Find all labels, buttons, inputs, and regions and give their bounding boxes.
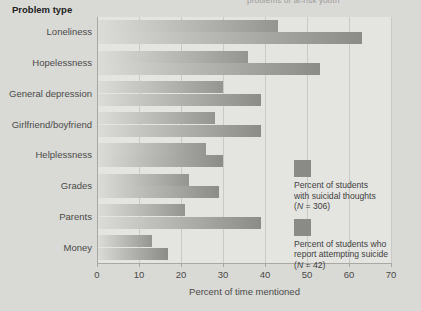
x-tick	[97, 263, 98, 267]
chart-legend: Percent of studentswith suicidal thought…	[294, 160, 418, 277]
legend-label: Percent of students whoreport attempting…	[294, 239, 418, 271]
category-label-helplessness: Helplessness	[0, 149, 92, 160]
x-tick	[139, 263, 140, 267]
x-tick-label-20: 20	[176, 269, 187, 280]
category-label-girlfriend-boyfriend: Girlfriend/boyfriend	[0, 119, 92, 130]
x-tick	[181, 263, 182, 267]
category-label-general-depression: General depression	[0, 88, 92, 99]
bar-money-series-1	[97, 235, 152, 247]
category-label-money: Money	[0, 242, 92, 253]
bar-girlfriend-boyfriend-series-2	[97, 125, 261, 137]
legend-swatch-attempted-suicide	[294, 219, 311, 236]
legend-label: Percent of studentswith suicidal thought…	[294, 180, 418, 212]
x-tick	[223, 263, 224, 267]
category-label-hopelessness: Hopelessness	[0, 57, 92, 68]
bar-helplessness-series-2	[97, 155, 223, 167]
chart-container: problems of at-risk youth Problem type L…	[0, 0, 421, 311]
y-axis-title: Problem type	[12, 4, 72, 15]
bar-girlfriend-boyfriend-series-1	[97, 112, 215, 124]
bar-general-depression-series-1	[97, 81, 223, 93]
x-tick-label-30: 30	[218, 269, 229, 280]
x-tick-label-40: 40	[260, 269, 271, 280]
x-tick-label-10: 10	[134, 269, 145, 280]
bar-grades-series-2	[97, 186, 219, 198]
x-tick-label-0: 0	[94, 269, 99, 280]
gridline	[265, 17, 266, 263]
x-tick	[265, 263, 266, 267]
bar-grades-series-1	[97, 174, 189, 186]
bar-hopelessness-series-1	[97, 51, 248, 63]
legend-entry: Percent of students whoreport attempting…	[294, 219, 418, 271]
bar-parents-series-1	[97, 204, 185, 216]
category-label-parents: Parents	[0, 211, 92, 222]
bar-loneliness-series-1	[97, 20, 278, 32]
bar-parents-series-2	[97, 217, 261, 229]
category-label-grades: Grades	[0, 180, 92, 191]
legend-swatch-suicidal-thoughts	[294, 160, 311, 177]
legend-entry: Percent of studentswith suicidal thought…	[294, 160, 418, 212]
bar-general-depression-series-2	[97, 94, 261, 106]
y-axis-line	[97, 17, 98, 264]
bar-hopelessness-series-2	[97, 63, 320, 75]
bar-helplessness-series-1	[97, 143, 206, 155]
category-label-column: LonelinessHopelessnessGeneral depression…	[0, 17, 92, 263]
cropped-header-text: problems of at-risk youth	[247, 0, 417, 5]
bar-loneliness-series-2	[97, 32, 362, 44]
bar-money-series-2	[97, 248, 168, 260]
x-axis-title: Percent of time mentioned	[97, 286, 392, 297]
category-label-loneliness: Loneliness	[0, 26, 92, 37]
